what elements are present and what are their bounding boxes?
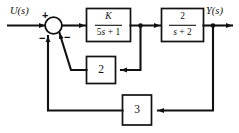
forward-gain-denominator: 5s + 1 [87, 28, 131, 38]
inner-feedback-gain-value: 2 [87, 64, 116, 76]
forward-gain-numerator: K [87, 12, 131, 22]
sum-sign-inner-feedback: − [64, 32, 70, 43]
input-signal-label: U(s) [10, 6, 29, 17]
output-signal-label: Y(s) [206, 6, 223, 17]
sum-sign-input: + [42, 10, 48, 21]
plant-denominator: s + 2 [162, 28, 204, 38]
sum-sign-outer-feedback: − [39, 33, 45, 44]
block-diagram: U(s) Y(s) + − − K 5s + 1 2 s + 2 2 3 [0, 0, 239, 133]
outer-feedback-gain-value: 3 [123, 104, 152, 116]
plant-numerator: 2 [162, 12, 204, 22]
